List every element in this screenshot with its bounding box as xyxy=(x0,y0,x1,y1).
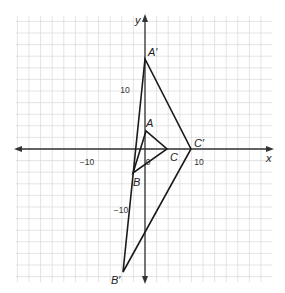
y-axis-up-arrow-icon xyxy=(142,14,148,22)
x-axis-left-arrow-icon xyxy=(14,146,22,152)
tick-label: −10 xyxy=(80,157,95,167)
vertex-label-b-prime: B′ xyxy=(111,274,121,286)
x-axis-label: x xyxy=(265,152,272,164)
vertex-label-a: A xyxy=(145,117,153,129)
axes: x y xyxy=(14,14,274,284)
vertex-label-c: C xyxy=(170,151,178,163)
tick-label: 10 xyxy=(120,85,130,95)
vertex-label-b: B xyxy=(133,176,140,188)
tick-label: 10 xyxy=(194,157,204,167)
y-axis-down-arrow-icon xyxy=(142,276,148,284)
vertex-label-a-prime: A′ xyxy=(147,46,158,58)
vertex-label-c-prime: C′ xyxy=(194,137,205,149)
tick-label: −10 xyxy=(114,205,129,215)
coordinate-plane: x y −1001010−10 ABCA′B′C′ xyxy=(0,0,285,293)
y-axis-label: y xyxy=(134,14,142,26)
